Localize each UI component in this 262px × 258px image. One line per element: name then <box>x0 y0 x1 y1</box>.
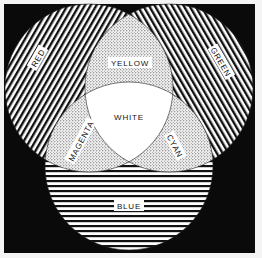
label-white: WHITE <box>114 113 144 122</box>
svg-text:WHITE: WHITE <box>114 113 144 122</box>
svg-text:YELLOW: YELLOW <box>111 59 149 68</box>
label-yellow: YELLOW <box>108 57 152 68</box>
venn-diagram: RED GREEN BLUE YELLOW MAGENTA CYAN WHITE <box>0 0 262 258</box>
label-blue: BLUE <box>114 200 144 211</box>
svg-text:BLUE: BLUE <box>117 202 141 211</box>
